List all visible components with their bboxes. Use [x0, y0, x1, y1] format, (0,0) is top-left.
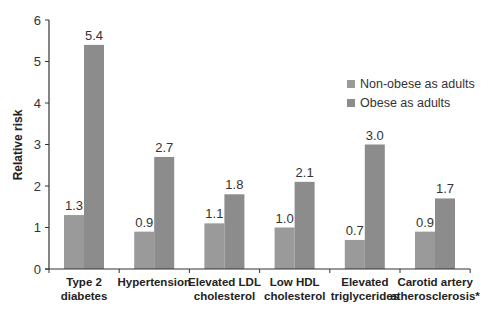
bar-obese	[224, 194, 244, 269]
bar-chart: 0123456 1.35.40.92.71.11.81.02.10.73.00.…	[0, 0, 492, 314]
y-tick-label: 4	[34, 96, 41, 111]
bar-value-label: 2.1	[296, 165, 314, 180]
bar-obese	[154, 157, 174, 269]
bar-obese	[295, 182, 315, 269]
y-axis-label: Relative risk	[11, 109, 25, 180]
bar-non-obese	[204, 223, 224, 269]
bar-obese	[435, 198, 455, 269]
y-tick-label: 1	[34, 220, 41, 235]
bar-non-obese	[275, 228, 295, 270]
bar-value-label: 5.4	[85, 28, 103, 43]
category-label: Elevated LDLcholesterol	[188, 276, 261, 302]
legend-label: Obese as adults	[360, 96, 450, 110]
bar-obese	[365, 145, 385, 270]
category-label: Low HDLcholesterol	[264, 276, 325, 302]
y-tick-label: 6	[34, 13, 41, 28]
bar-non-obese	[134, 232, 154, 269]
bars: 1.35.40.92.71.11.81.02.10.73.00.91.7	[64, 28, 455, 269]
y-axis: 0123456	[34, 13, 49, 277]
category-label: Elevatedtriglycerides	[331, 276, 399, 302]
y-tick-label: 0	[34, 262, 41, 277]
bar-value-label: 0.7	[346, 223, 364, 238]
x-axis: Type 2diabetesHypertensionElevated LDLch…	[45, 269, 480, 302]
y-tick-label: 3	[34, 137, 41, 152]
bar-value-label: 0.9	[135, 215, 153, 230]
bar-value-label: 2.7	[155, 140, 173, 155]
category-label: Hypertension	[118, 276, 192, 288]
bar-obese	[84, 45, 104, 269]
category-label: Type 2diabetes	[61, 276, 108, 302]
y-tick-label: 5	[34, 54, 41, 69]
legend-swatch	[347, 80, 355, 88]
bar-value-label: 1.7	[436, 181, 454, 196]
bar-value-label: 0.9	[416, 215, 434, 230]
legend-swatch	[347, 99, 355, 107]
legend: Non-obese as adultsObese as adults	[347, 77, 475, 110]
bar-non-obese	[64, 215, 84, 269]
bar-value-label: 1.1	[205, 206, 223, 221]
bar-value-label: 1.8	[225, 177, 243, 192]
bar-non-obese	[345, 240, 365, 269]
bar-value-label: 1.0	[276, 211, 294, 226]
category-label: Carotid arteryatherosclerosis*	[390, 276, 480, 302]
y-tick-label: 2	[34, 179, 41, 194]
bar-value-label: 1.3	[65, 198, 83, 213]
bar-value-label: 3.0	[366, 128, 384, 143]
legend-label: Non-obese as adults	[360, 77, 475, 91]
bar-non-obese	[415, 232, 435, 269]
